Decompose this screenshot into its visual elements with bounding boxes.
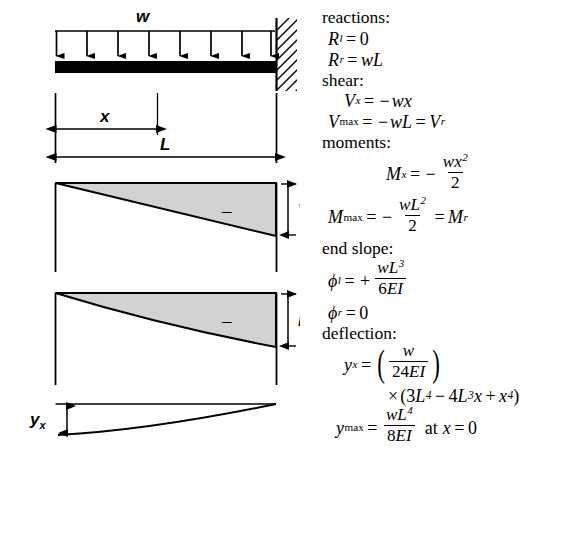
ymax-num-L: L [397, 405, 407, 424]
equation-yx-continuation: ×(3L4−4L3x+x4) [322, 387, 580, 405]
yx-denominator: 24EI [389, 361, 428, 381]
moment-ordinate-label: Mr [298, 311, 300, 332]
Mx-numerator: wx2 [440, 152, 471, 172]
Rr-L: L [373, 51, 383, 69]
Vmax-tail-sub: r [440, 116, 445, 127]
phil-num-L: L [389, 258, 399, 277]
Mx-equals: = [406, 165, 423, 183]
yx-num-w: w [403, 341, 414, 360]
yxc-L2: L [458, 387, 468, 405]
load-arrows [57, 31, 272, 56]
yx-paren-right: ) [432, 350, 440, 378]
deflection-diagram [56, 404, 277, 435]
Mmax-tail-var: M [448, 208, 463, 226]
phil-denominator: 6EI [375, 278, 406, 298]
Vmax-w: w [390, 113, 402, 131]
equation-Vmax: Vmax=−wL=Vr [322, 113, 580, 131]
ymax-numerator: wL4 [383, 405, 416, 425]
ymax-at-equals: = [451, 419, 468, 437]
Mx-fraction: wx22 [440, 152, 471, 192]
cantilever-beam-figure: w x L – – Vr Mr yx [0, 0, 300, 555]
Mmax-sub: max [343, 212, 363, 223]
deflection-label: yx [29, 410, 46, 431]
Mx-denominator: 2 [448, 172, 463, 192]
equation-Rl: Rl=0 [322, 30, 580, 48]
ymax-denominator: 8EI [384, 425, 415, 445]
Mmax-equals: = [363, 208, 380, 226]
beam-diagram-page: w x L – – Vr Mr yx reactions: Rl=0 Rr=wL… [0, 0, 585, 555]
equation-Vx: Vx=−wx [322, 92, 580, 110]
yxc-coef3: 3 [406, 387, 415, 405]
equation-phi-r: ϕr=0 [322, 304, 580, 322]
phil-num-exp: 3 [398, 257, 404, 269]
moments-heading: moments: [322, 134, 580, 152]
phir-equals: = [342, 304, 359, 322]
ymax-at-text: at [418, 419, 443, 437]
phil-var: ϕ [328, 272, 337, 290]
deflection-heading: deflection: [322, 325, 580, 343]
Mx-num-x: x [454, 152, 462, 171]
beam-element [55, 61, 276, 73]
yxc-times: × [386, 387, 400, 405]
phil-den-6: 6 [378, 279, 387, 298]
ymax-var: y [336, 419, 344, 437]
yxc-coef4: 4 [449, 387, 458, 405]
load-label: w [136, 7, 151, 26]
phil-numerator: wL3 [374, 258, 407, 278]
yxc-x2: x [499, 387, 507, 405]
moment-negative-sign: – [221, 310, 232, 331]
Vmax-equals: = [359, 113, 376, 131]
equation-Mx: Mx=−wx22 [322, 155, 580, 195]
ymax-den-8: 8 [387, 426, 396, 445]
Vx-equals: = [360, 92, 377, 110]
Mmax-var: M [328, 208, 343, 226]
equation-ymax: ymax=wL48EIatx=0 [322, 408, 580, 448]
equation-yx: yx=(w24EI) [322, 345, 580, 384]
end-slope-heading: end slope: [322, 240, 580, 258]
Vmax-sub: max [339, 116, 359, 127]
Rl-equals: = [343, 30, 360, 48]
Mmax-num-w: w [399, 195, 410, 214]
ymax-den-E: E [396, 426, 406, 445]
Rr-w: w [361, 51, 373, 69]
Vmax-equals2: = [412, 113, 429, 131]
Mx-num-exp: 2 [462, 151, 468, 163]
yx-fraction: w24EI [389, 342, 428, 381]
phil-fraction: wL36EI [374, 258, 407, 298]
Rl-var: R [328, 30, 339, 48]
ymax-den-I: I [406, 426, 412, 445]
yxc-minus: − [431, 387, 448, 405]
deflection-curve [58, 404, 276, 435]
Vx-var: V [344, 92, 355, 110]
yx-den-24: 24 [392, 362, 409, 381]
Rl-value: 0 [360, 30, 369, 48]
ymax-sub: max [344, 422, 364, 433]
equation-Mmax: Mmax=−wL22=Mr [322, 197, 580, 237]
ymax-num-w: w [386, 405, 397, 424]
shear-ordinate-label: Vr [298, 201, 300, 222]
phil-plus: + [358, 272, 372, 290]
moment-diagram [56, 293, 297, 385]
dimension-x-label: x [99, 107, 111, 126]
Vmax-L: L [402, 113, 412, 131]
Vmax-var: V [328, 113, 339, 131]
Mx-minus: − [424, 165, 438, 183]
phil-equals: = [341, 272, 358, 290]
Vx-w: w [392, 92, 404, 110]
phir-value: 0 [359, 304, 368, 322]
phil-den-E: E [387, 279, 397, 298]
Mx-num-w: w [443, 152, 454, 171]
yxc-L1: L [415, 387, 425, 405]
yxc-x1: x [474, 387, 482, 405]
Rr-equals: = [344, 51, 361, 69]
Mmax-denominator: 2 [405, 215, 420, 235]
Mmax-fraction: wL22 [396, 195, 429, 235]
Mmax-num-L: L [410, 195, 420, 214]
ymax-equals: = [364, 419, 381, 437]
shear-heading: shear: [322, 72, 580, 90]
yx-den-E: E [409, 362, 419, 381]
moment-region [56, 293, 277, 347]
equation-Rr: Rr=wL [322, 51, 580, 69]
ymax-at-var: x [443, 419, 451, 437]
yx-den-I: I [419, 362, 425, 381]
